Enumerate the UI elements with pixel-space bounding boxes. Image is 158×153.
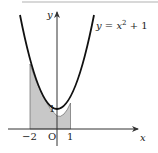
origin-label: O [48,131,56,142]
shaded-area [30,64,71,129]
y-axis-label: y [46,9,53,20]
x-tick-label-1: 1 [67,131,73,142]
curve-equation-label: y = x2 + 1 [95,19,148,31]
function-graph: y x O −2 1 1 y = x2 + 1 [0,0,158,153]
x-axis-label: x [140,132,146,143]
x-tick-label-neg2: −2 [22,131,37,142]
y-tick-label-1: 1 [49,103,55,114]
